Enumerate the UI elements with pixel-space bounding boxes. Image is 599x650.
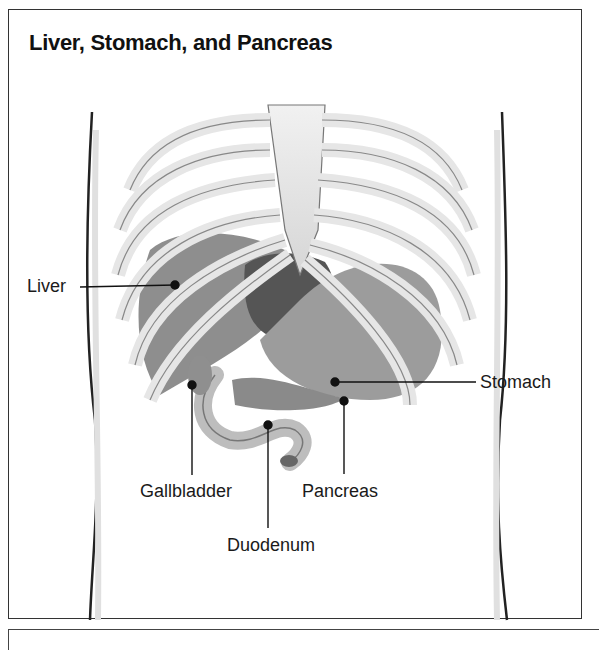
label-pancreas: Pancreas — [302, 481, 378, 502]
label-stomach: Stomach — [480, 372, 551, 393]
label-duodenum: Duodenum — [227, 535, 315, 556]
label-gallbladder: Gallbladder — [140, 481, 232, 502]
duodenum-opening — [280, 455, 298, 467]
label-liver: Liver — [27, 276, 66, 297]
